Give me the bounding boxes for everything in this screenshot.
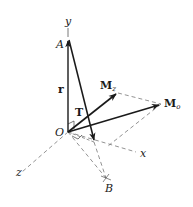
vector-mz-label: Mz [100,79,116,93]
y-axis-label: y [64,15,72,28]
point-b-label: B [104,182,113,195]
vector-t-label: T [75,106,84,119]
point-a-label: A [55,38,64,51]
moment-vector-diagram: y A r T O Mz Mo x z B [0,0,193,207]
construction-line-mz-mo [118,93,161,104]
vector-r-label: r [58,83,64,96]
vector-mo-main: M [164,97,176,110]
x-axis [68,132,136,152]
vector-mo-label: Mo [164,97,180,111]
z-axis-label: z [15,166,22,179]
construction-line-mo-x [108,104,161,146]
x-axis-label: x [140,147,147,160]
construction-line-o-perp [68,132,94,142]
vector-mz-main: M [100,79,112,92]
vector-mo-sub: o [176,103,180,111]
vector-mz-sub: z [111,85,116,93]
diagram-svg: y A r T O Mz Mo x z B [0,0,193,207]
construction-line-t-b [94,142,106,178]
origin-label: O [55,126,64,139]
